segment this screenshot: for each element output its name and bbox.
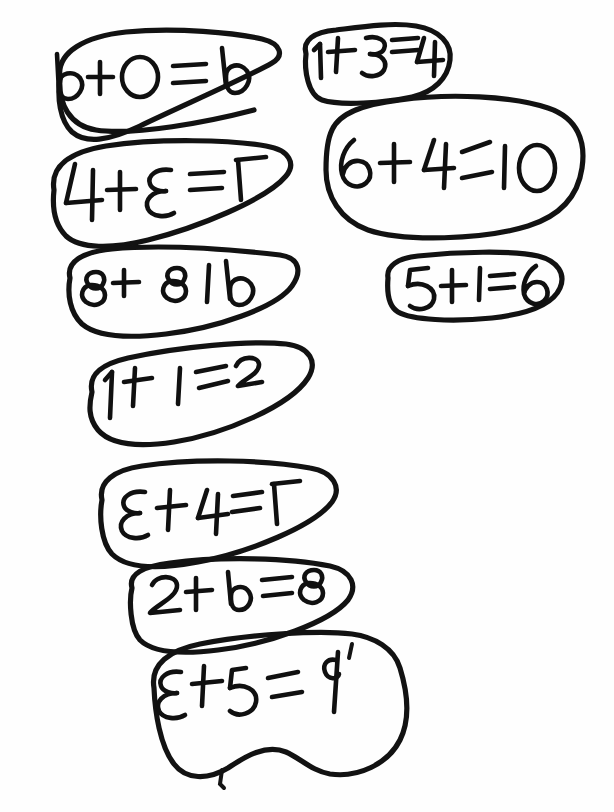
digit-one-9: [504, 146, 505, 188]
digit-zero-9: [519, 145, 555, 191]
digit-zero-1: [122, 57, 158, 97]
equals-sign-7: [268, 672, 302, 697]
plus-sign-7: [192, 666, 222, 706]
digit-one-3: [207, 265, 209, 302]
pen-tick-above-nine: [349, 644, 352, 658]
plus-sign-8: [328, 38, 355, 72]
plus-sign-1: [88, 62, 113, 94]
equals-sign-6: [262, 577, 292, 596]
equals-sign-9: [462, 142, 492, 178]
equals-sign-1: [173, 64, 206, 83]
digit-four-9: [424, 140, 454, 188]
plus-sign-5: [157, 490, 186, 530]
plus-sign-2: [107, 172, 136, 210]
digit-two-4: [236, 358, 262, 386]
digit-eight-6: [300, 570, 323, 603]
equals-sign-4: [196, 366, 228, 388]
digit-six-10: [524, 266, 548, 304]
digit-seven-hook-5: [272, 481, 300, 524]
equals-sign-10: [490, 274, 514, 289]
equation-bubble-10[interactable]: [388, 252, 562, 320]
equals-sign-8: [392, 38, 418, 52]
digit-four-5: [198, 490, 228, 534]
digit-four-2: [66, 164, 102, 220]
digit-one-8: [314, 44, 321, 78]
stray-pen-tick: [220, 770, 224, 788]
plus-sign-10: [441, 270, 466, 302]
plus-sign-3: [113, 270, 139, 296]
equation-bubble-1[interactable]: [57, 30, 279, 139]
plus-sign-9: [380, 144, 410, 182]
digit-one-b-4: [178, 368, 180, 404]
digit-two-6: [150, 577, 180, 613]
digit-four-8: [417, 38, 443, 76]
digit-eight-b-3: [163, 268, 186, 301]
bubble-outline-4: [90, 343, 312, 445]
equation-bubble-5[interactable]: [101, 461, 336, 567]
equation-bubble-2[interactable]: [53, 141, 290, 247]
equation-bubble-3[interactable]: [69, 247, 298, 336]
digit-five-7: [230, 668, 256, 714]
digit-three-mirrored-5: [121, 492, 148, 538]
digit-five-10: [408, 268, 434, 309]
digit-six-9: [341, 140, 370, 186]
worksheet-canvas: [0, 0, 614, 812]
digit-three-8: [362, 37, 385, 76]
handwritten-worksheet-page: Handwritten addition equations in drawn …: [0, 0, 614, 812]
digit-three-mirrored-2: [147, 170, 174, 216]
plus-sign-6: [186, 578, 212, 610]
digit-eight-a-3: [82, 272, 105, 305]
digit-three-mirrored-7: [158, 672, 185, 718]
digit-six-3: [226, 261, 253, 305]
digit-six-6: [228, 572, 251, 610]
digit-six-b-1: [222, 48, 249, 93]
digit-one-a-4: [105, 372, 112, 418]
equals-sign-2: [190, 172, 224, 190]
digit-nine-mirrored-7: [324, 652, 339, 712]
equation-bubble-4[interactable]: [90, 343, 312, 445]
equals-sign-5: [232, 492, 262, 512]
equation-bubble-9[interactable]: [326, 96, 583, 238]
equation-bubble-8[interactable]: [305, 25, 450, 104]
plus-sign-4: [124, 368, 152, 406]
digit-one-10: [479, 268, 480, 300]
